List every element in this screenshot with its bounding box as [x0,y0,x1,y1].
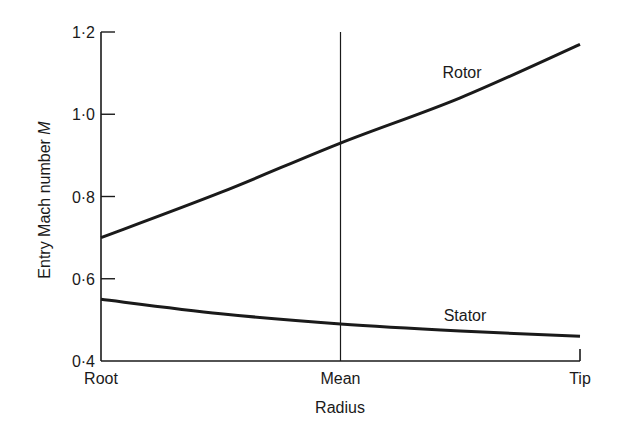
x-tick-label: Root [84,370,118,387]
chart: 0·40·60·81·01·2RootMeanTip RotorStator R… [0,0,617,433]
y-tick-label: 0·6 [72,271,95,288]
x-tick-label: Tip [569,370,591,387]
y-tick-label: 0·4 [72,353,95,370]
y-axis-label-text: Entry Mach number [36,135,53,279]
y-axis-label: Entry Mach number M [36,121,53,279]
stator-label: Stator [444,307,487,324]
x-axis-label: Radius [315,399,365,416]
rotor-label: Rotor [442,64,482,81]
y-axis-label-symbol: M [36,121,53,135]
y-tick-label: 1·0 [72,106,95,123]
y-tick-label: 0·8 [72,189,95,206]
y-tick-label: 1·2 [72,24,95,41]
x-tick-label: Mean [320,370,360,387]
